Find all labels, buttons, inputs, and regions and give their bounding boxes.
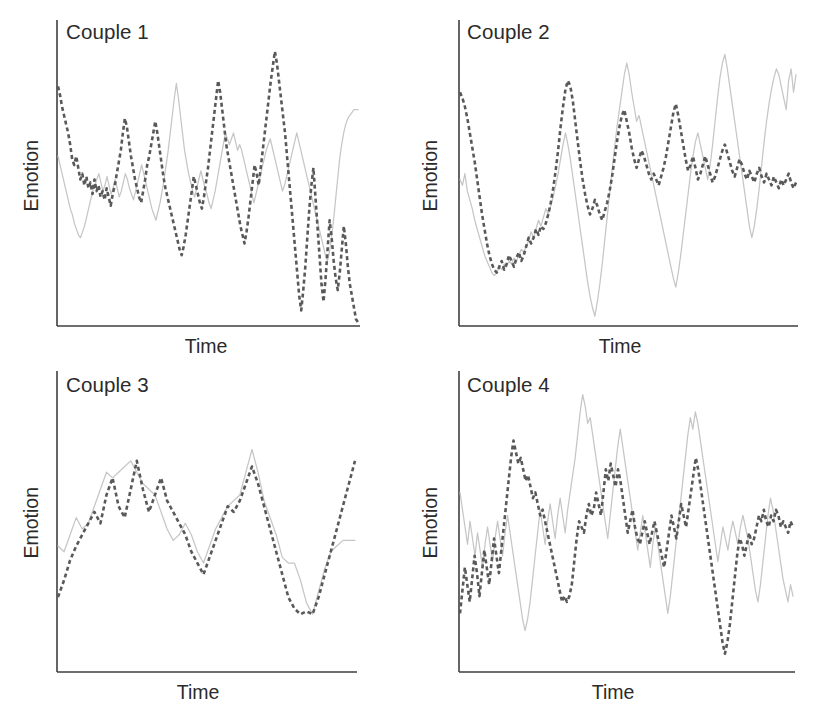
- panel-couple-4: Couple 4 Emotion Time: [415, 363, 831, 727]
- series-solid-path: [460, 395, 793, 631]
- couples-emotion-figure: Couple 1 Emotion Time Couple 2 Emotion T…: [0, 0, 831, 727]
- panel-title-couple-1: Couple 1: [66, 22, 149, 43]
- panel-title-couple-2: Couple 2: [467, 22, 550, 43]
- series-group-couple-1: [58, 51, 358, 322]
- series-dashed-path: [460, 81, 796, 273]
- x-axis-label-couple-2: Time: [550, 337, 690, 357]
- panel-couple-2: Couple 2 Emotion Time: [415, 0, 831, 363]
- y-axis-label-couple-4: Emotion: [421, 471, 441, 575]
- panel-title-couple-3: Couple 3: [66, 375, 149, 396]
- y-axis-label-couple-2: Emotion: [421, 124, 441, 228]
- y-axis-label-couple-3: Emotion: [22, 471, 42, 575]
- series-dashed-path: [58, 51, 358, 322]
- series-group-couple-2: [460, 54, 796, 316]
- panel-title-couple-4: Couple 4: [467, 375, 550, 396]
- chart-canvas-couple-1: [0, 0, 415, 363]
- series-solid-path: [460, 54, 796, 316]
- panel-couple-1: Couple 1 Emotion Time: [0, 0, 415, 363]
- x-axis-label-couple-3: Time: [128, 683, 268, 703]
- x-axis-label-couple-1: Time: [136, 337, 276, 357]
- series-group-couple-3: [58, 449, 355, 614]
- chart-canvas-couple-4: [415, 363, 831, 727]
- x-axis-label-couple-4: Time: [543, 683, 683, 703]
- series-group-couple-4: [460, 395, 793, 654]
- axes-couple-2: [459, 20, 798, 326]
- y-axis-label-couple-1: Emotion: [22, 124, 42, 228]
- panel-couple-3: Couple 3 Emotion Time: [0, 363, 415, 727]
- chart-canvas-couple-3: [0, 363, 415, 727]
- series-solid-path: [58, 449, 355, 614]
- chart-canvas-couple-2: [415, 0, 831, 363]
